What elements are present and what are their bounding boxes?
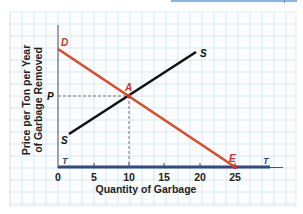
tick-25: 25: [229, 171, 241, 183]
tick-5: 5: [91, 171, 97, 183]
grid: [10, 12, 296, 206]
label-d: D: [61, 37, 68, 48]
y-axis-title-line2: of Garbage Removed: [32, 47, 44, 153]
x-axis-title: Quantity of Garbage: [96, 183, 197, 195]
label-s-top: S: [200, 48, 207, 59]
tick-0: 0: [55, 171, 61, 183]
y-axis-title: Price per Ton per Year of Garbage Remove…: [20, 45, 44, 156]
label-e: E: [229, 153, 236, 164]
tick-10: 10: [123, 171, 135, 183]
y-axis-title-line1: Price per Ton per Year: [20, 45, 32, 156]
label-a: A: [124, 82, 132, 93]
label-s-bottom: S: [61, 135, 68, 146]
chart: D A E S S T T P 0 5 10 15 20 25 Quantity…: [0, 0, 303, 214]
tick-20: 20: [194, 171, 206, 183]
label-p: P: [47, 91, 54, 102]
tick-15: 15: [158, 171, 170, 183]
point-a: [127, 94, 131, 98]
point-e: [233, 165, 237, 169]
